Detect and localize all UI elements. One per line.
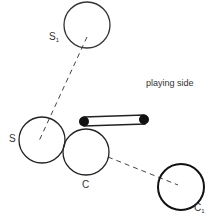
billiards-diagram: S1 S C C1 playing side	[0, 0, 212, 217]
dashed-path-s1-to-s	[39, 37, 87, 141]
label-s: S	[9, 133, 16, 144]
ball-s	[19, 117, 65, 163]
label-c: C	[82, 179, 89, 190]
label-s1: S1	[49, 31, 60, 43]
ball-c	[63, 129, 109, 175]
dashed-path-c-to-c1	[108, 157, 178, 185]
ball-s1	[64, 2, 110, 48]
label-c1: C1	[194, 202, 205, 214]
label-playing-side: playing side	[146, 78, 194, 88]
cushion-bar	[79, 115, 149, 127]
